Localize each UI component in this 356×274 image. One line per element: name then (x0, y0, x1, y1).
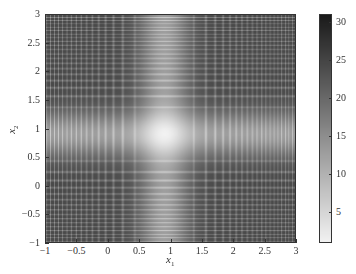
y-tick-mark (45, 14, 49, 15)
colorbar-tick-mark (329, 174, 332, 175)
colorbar-tick-label: 30 (336, 17, 346, 27)
x-tick-label: 3 (294, 246, 299, 256)
x-tick-mark (171, 239, 172, 243)
y-tick-label: 2 (10, 66, 40, 76)
y-tick-label: 2.5 (10, 38, 40, 48)
heatmap-plot-area (45, 14, 296, 243)
y-tick-mark (45, 71, 49, 72)
y-tick-label: 0 (10, 181, 40, 191)
x-tick-mark (76, 239, 77, 243)
x-tick-mark (233, 239, 234, 243)
x-tick-mark (265, 239, 266, 243)
colorbar-tick-mark (329, 98, 332, 99)
heatmap-canvas (46, 15, 295, 242)
y-tick-mark (45, 157, 49, 158)
colorbar-tick-label: 25 (336, 55, 346, 65)
x-tick-label: −1 (40, 246, 51, 256)
colorbar-tick-mark (329, 60, 332, 61)
y-tick-mark (45, 129, 49, 130)
y-tick-mark (45, 100, 49, 101)
y-tick-label: −1 (10, 238, 40, 248)
colorbar-tick-mark (329, 136, 332, 137)
y-tick-label: −0.5 (10, 209, 40, 219)
colorbar (319, 14, 332, 243)
x-tick-label: 1.5 (196, 246, 209, 256)
x-axis-label: x1 (166, 253, 174, 268)
y-tick-mark (45, 186, 49, 187)
x-tick-label: 0.5 (133, 246, 146, 256)
y-tick-mark (45, 214, 49, 215)
x-tick-mark (202, 239, 203, 243)
y-tick-mark (45, 43, 49, 44)
colorbar-tick-label: 5 (336, 207, 341, 217)
x-tick-label: 0 (105, 246, 110, 256)
colorbar-tick-label: 15 (336, 131, 346, 141)
y-axis-label: x2 (5, 125, 20, 133)
x-tick-mark (296, 239, 297, 243)
x-tick-mark (108, 239, 109, 243)
y-tick-label: 3 (10, 9, 40, 19)
colorbar-tick-label: 10 (336, 169, 346, 179)
x-tick-label: 2.5 (258, 246, 271, 256)
x-tick-label: 2 (231, 246, 236, 256)
x-tick-label: −0.5 (67, 246, 85, 256)
y-tick-label: 0.5 (10, 152, 40, 162)
y-tick-mark (45, 243, 49, 244)
colorbar-tick-mark (329, 22, 332, 23)
x-tick-mark (139, 239, 140, 243)
colorbar-canvas (320, 15, 331, 242)
colorbar-tick-label: 20 (336, 93, 346, 103)
colorbar-tick-mark (329, 212, 332, 213)
y-tick-label: 1.5 (10, 95, 40, 105)
